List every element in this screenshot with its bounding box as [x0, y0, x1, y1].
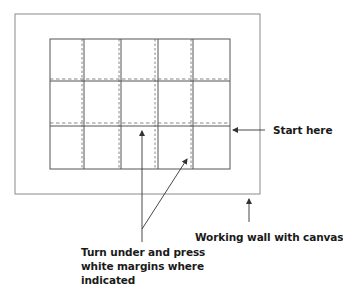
turn-under-line-1: Turn under and press	[81, 245, 205, 259]
arrows	[142, 130, 265, 242]
working-wall-label: Working wall with canvas	[195, 230, 343, 244]
working-wall-outline	[15, 14, 260, 194]
start-here-label: Start here	[273, 123, 332, 137]
dashed-margin-lines-vertical	[82, 39, 191, 169]
canvas-grid	[50, 39, 230, 169]
turn-under-label: Turn under and press white margins where…	[81, 245, 205, 287]
turn-under-line-3: indicated	[81, 273, 205, 287]
turn-under-line-2: white margins where	[81, 259, 205, 273]
grid-lines-solid	[50, 39, 230, 169]
canvas-grid-outline	[50, 39, 230, 169]
dashed-margin-lines-horizontal	[50, 79, 230, 123]
